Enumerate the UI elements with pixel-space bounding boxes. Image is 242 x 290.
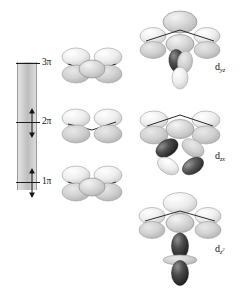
ligand-orbital-1pi <box>60 160 124 208</box>
mo-label-dzx-sub: zx <box>220 155 225 162</box>
mo-label-dz2-sub: z2 <box>220 248 225 255</box>
level-label-2pi: 2π <box>42 117 51 127</box>
mo-label-dz2: dz2 <box>215 243 225 254</box>
ligand-orbital-2pi <box>60 104 124 146</box>
mo-orbital-dyz <box>138 8 222 90</box>
mo-label-dzx: dzx <box>215 150 225 161</box>
ligand-orbital-3pi <box>60 42 124 90</box>
mo-energy-diagram-figure: 3π 2π 1π <box>0 0 242 290</box>
level-label-3pi: 3π <box>42 58 51 68</box>
mo-label-dz2-sup: 2 <box>222 247 224 252</box>
mo-label-dyz-sub: yz <box>220 66 225 73</box>
mo-label-dyz: dyz <box>215 61 225 72</box>
spin-arrows-2pi <box>25 108 39 138</box>
spin-arrows-1pi <box>25 168 39 198</box>
level-tick-3pi <box>16 63 40 64</box>
mo-orbital-dzx <box>138 98 222 180</box>
mo-orbital-dz2 <box>138 190 222 286</box>
level-label-1pi: 1π <box>42 177 51 187</box>
